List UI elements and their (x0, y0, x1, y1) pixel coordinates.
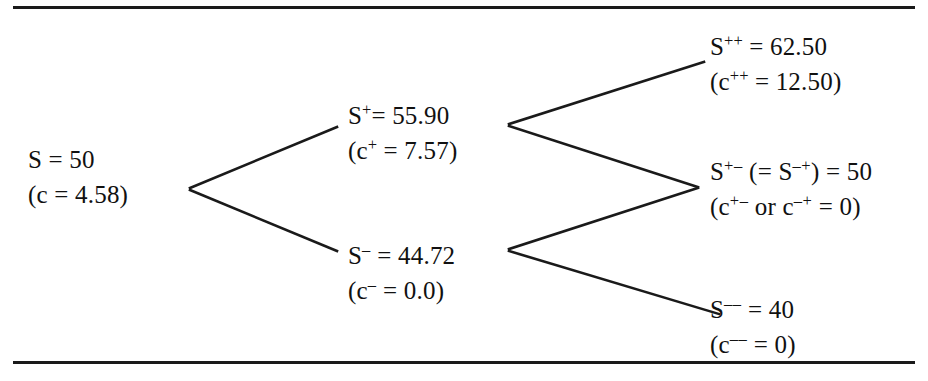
node-root-stock: S = 50 (28, 142, 128, 177)
superscript-plus-minus: +– (730, 191, 749, 210)
node-down: S– = 44.72 (c– = 0.0) (348, 232, 455, 302)
node-up-stock: S+= 55.90 (348, 92, 457, 127)
superscript-minus-plus: –+ (794, 191, 813, 210)
superscript-plus: + (368, 135, 377, 154)
superscript-minus: – (362, 240, 371, 259)
superscript-minus-plus: –+ (793, 156, 812, 175)
node-down-down: S–– = 40 (c–– = 0) (710, 286, 796, 356)
node-up-down-option: (c+– or c–+ = 0) (710, 183, 872, 218)
node-down-down-option: (c–– = 0) (710, 321, 796, 356)
node-down-stock: S– = 44.72 (348, 232, 455, 267)
binomial-tree-figure: S = 50 (c = 4.58) S+= 55.90 (c+ = 7.57) … (0, 0, 928, 381)
node-down-down-stock: S–– = 40 (710, 286, 796, 321)
superscript-plus-plus: ++ (724, 31, 743, 50)
node-up-up-option: (c++ = 12.50) (710, 58, 841, 93)
node-root: S = 50 (c = 4.58) (28, 142, 128, 212)
branch-up-to-upup (509, 62, 704, 124)
branch-up-to-updown (509, 126, 698, 187)
superscript-minus-minus: –– (730, 329, 748, 348)
node-up: S+= 55.90 (c+ = 7.57) (348, 92, 457, 162)
superscript-minus: – (368, 275, 377, 294)
branch-down-to-updown (509, 188, 698, 249)
node-up-up: S++ = 62.50 (c++ = 12.50) (710, 23, 841, 93)
superscript-plus-minus: +– (724, 156, 743, 175)
node-root-option: (c = 4.58) (28, 177, 128, 212)
branch-down-to-downdown (509, 251, 719, 314)
node-down-option: (c– = 0.0) (348, 267, 455, 302)
node-up-down-stock: S+– (= S–+) = 50 (710, 148, 872, 183)
node-up-down: S+– (= S–+) = 50 (c+– or c–+ = 0) (710, 148, 872, 218)
node-up-option: (c+ = 7.57) (348, 127, 457, 162)
branch-root-to-up (190, 127, 337, 188)
node-up-up-stock: S++ = 62.50 (710, 23, 841, 58)
superscript-plus-plus: ++ (730, 66, 749, 85)
branch-root-to-down (190, 190, 337, 251)
superscript-minus-minus: –– (724, 294, 742, 313)
